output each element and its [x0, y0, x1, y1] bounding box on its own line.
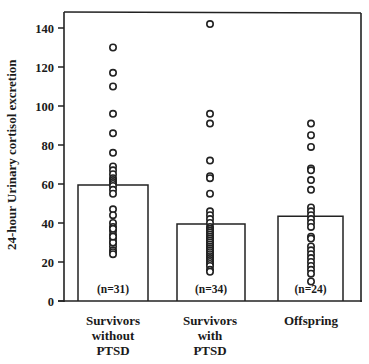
n-labels: (n=31)(n=34)(n=24) — [97, 283, 327, 296]
x-category-label: Offspring — [256, 313, 366, 328]
data-point — [308, 132, 314, 138]
data-point — [308, 120, 314, 126]
data-point — [110, 44, 116, 50]
y-tick-label: 60 — [42, 178, 55, 192]
data-point — [110, 70, 116, 76]
data-point — [207, 111, 213, 117]
y-axis-ticks: 020406080100120140 — [35, 22, 64, 309]
data-points — [110, 21, 314, 285]
data-point — [207, 21, 213, 27]
y-tick-label: 40 — [42, 217, 55, 231]
data-point — [308, 271, 314, 277]
data-point — [110, 251, 116, 257]
data-point — [308, 224, 314, 230]
data-point — [308, 235, 314, 241]
data-point — [110, 191, 116, 197]
y-tick-label: 140 — [35, 22, 54, 36]
bar-chart: 020406080100120140 (n=31)(n=34)(n=24) — [0, 0, 369, 364]
data-point — [207, 269, 213, 275]
data-point — [110, 212, 116, 218]
n-label: (n=31) — [97, 283, 129, 296]
data-point — [308, 187, 314, 193]
data-point — [110, 83, 116, 89]
x-category-label: SurvivorswithoutPTSD — [58, 313, 168, 358]
y-tick-label: 100 — [35, 100, 54, 114]
data-point — [207, 120, 213, 126]
y-tick-label: 80 — [42, 139, 55, 153]
data-point — [110, 130, 116, 136]
data-point — [207, 191, 213, 197]
n-label: (n=24) — [294, 283, 326, 296]
n-label: (n=34) — [195, 283, 227, 296]
data-point — [110, 150, 116, 156]
y-tick-label: 0 — [48, 295, 54, 309]
x-category-label: SurvivorswithPTSD — [155, 313, 265, 358]
y-tick-label: 120 — [35, 61, 54, 75]
y-axis-label: 24-hour Urinary cortisol excretion — [4, 70, 24, 250]
data-point — [308, 144, 314, 150]
y-tick-label: 20 — [42, 256, 55, 270]
data-point — [207, 175, 213, 181]
data-point — [110, 226, 116, 232]
data-point — [110, 111, 116, 117]
data-point — [308, 177, 314, 183]
data-point — [207, 157, 213, 163]
data-point — [110, 233, 116, 239]
data-point — [308, 167, 314, 173]
